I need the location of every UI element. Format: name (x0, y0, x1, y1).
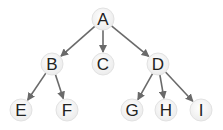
node-e: E (10, 99, 32, 121)
node-label: F (62, 101, 72, 120)
edge-b-f (55, 74, 63, 98)
edge-a-d (112, 26, 149, 56)
edge-d-h (160, 75, 164, 98)
node-label: H (160, 101, 172, 120)
node-c: C (92, 53, 114, 75)
nodes-group: ABCDEFGHI (10, 8, 212, 121)
edge-b-e (28, 73, 46, 100)
node-label: C (97, 55, 109, 74)
edge-a-b (61, 26, 95, 56)
node-label: B (46, 55, 57, 74)
node-h: H (155, 99, 177, 121)
node-label: G (125, 101, 138, 120)
tree-diagram: ABCDEFGHI (0, 0, 223, 130)
node-a: A (92, 8, 114, 30)
node-d: D (147, 53, 169, 75)
edge-d-g (138, 74, 153, 100)
node-g: G (121, 99, 143, 121)
edge-d-i (166, 72, 193, 101)
node-i: I (190, 99, 212, 121)
node-f: F (56, 99, 78, 121)
node-b: B (41, 53, 63, 75)
node-label: A (97, 10, 109, 29)
node-label: E (15, 101, 26, 120)
node-label: D (152, 55, 164, 74)
node-label: I (199, 101, 204, 120)
